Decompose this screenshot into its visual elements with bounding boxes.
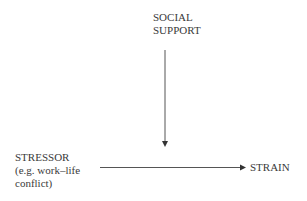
diagram-edges [0, 0, 307, 201]
arrowhead-down-icon [162, 141, 168, 147]
arrowhead-right-icon [240, 165, 246, 171]
moderator-arrow [162, 50, 168, 147]
main-effect-arrow [100, 165, 246, 171]
